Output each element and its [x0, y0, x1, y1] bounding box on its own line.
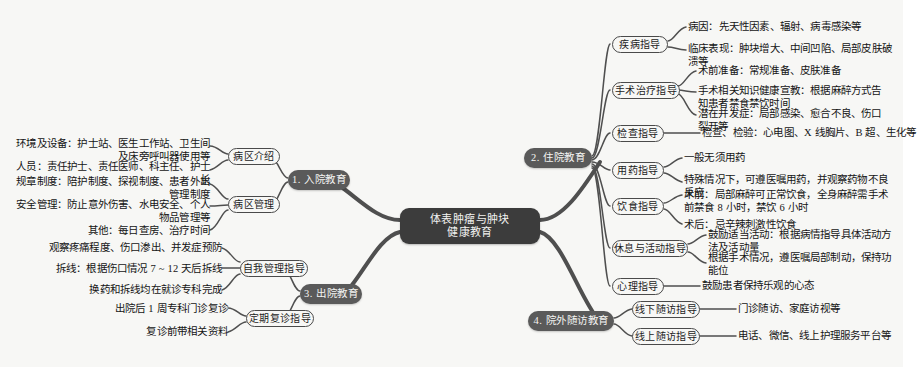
group-node-surgery-guidance[interactable]: 手术治疗指导 [612, 82, 680, 99]
root-node[interactable]: 体表肿瘤与肿块 健康教育 [400, 208, 540, 244]
branch-node-discharge[interactable]: 3. 出院教育 [300, 284, 362, 304]
group-node-examination-guidance[interactable]: 检查指导 [612, 125, 664, 142]
group-node-ward-management[interactable]: 病区管理 [228, 196, 280, 213]
branch-label-outpatient-followup: 4. 院外随访教育 [534, 315, 609, 327]
leaf-self-mgmt-dressing-change: 换药和拆线均在就诊专科完成 [16, 283, 222, 296]
group-label-ward-management: 病区管理 [233, 199, 274, 211]
group-node-online-followup[interactable]: 线上随访指导 [632, 328, 700, 345]
branch-node-admission[interactable]: 1. 入院教育 [288, 170, 350, 190]
group-label-rest-activity-guidance: 休息与活动指导 [614, 243, 686, 255]
group-node-followup-visit[interactable]: 定期复诊指导 [246, 310, 314, 327]
leaf-followup-one-week: 出院后 1 周专科门诊复诊 [22, 302, 228, 315]
group-label-followup-visit: 定期复诊指导 [249, 313, 311, 325]
branch-label-discharge: 3. 出院教育 [304, 288, 358, 300]
leaf-followup-bring-records: 复诊前带相关资料 [22, 325, 228, 338]
group-node-rest-activity-guidance[interactable]: 休息与活动指导 [612, 240, 688, 257]
root-title-line2: 健康教育 [447, 226, 493, 239]
branch-node-outpatient-followup[interactable]: 4. 院外随访教育 [528, 311, 614, 331]
branch-label-admission: 1. 入院教育 [292, 174, 346, 186]
group-node-ward-intro[interactable]: 病区介绍 [228, 148, 280, 165]
branch-label-inpatient: 2. 住院教育 [531, 152, 585, 164]
root-title-line1: 体表肿瘤与肿块 [430, 213, 510, 226]
group-node-self-management[interactable]: 自我管理指导 [240, 260, 308, 277]
leaf-medication-none-needed: 一般无须用药 [684, 151, 899, 164]
leaf-self-mgmt-observe-pain: 观察疼痛程度、伤口渗出、并发症预防 [16, 241, 222, 254]
group-label-ward-intro: 病区介绍 [233, 151, 274, 163]
group-label-examination-guidance: 检查指导 [617, 128, 658, 140]
group-node-disease-guidance[interactable]: 疾病指导 [612, 36, 668, 53]
group-label-offline-followup: 线下随访指导 [635, 304, 697, 316]
leaf-online-followup-methods: 电话、微信、线上护理服务平台等 [738, 329, 903, 342]
leaf-disease-cause: 病因：先天性因素、辐射、病毒感染等 [688, 20, 903, 33]
group-node-offline-followup[interactable]: 线下随访指导 [632, 301, 700, 318]
group-label-online-followup: 线上随访指导 [635, 331, 697, 343]
leaf-offline-followup-methods: 门诊随访、家庭访视等 [738, 302, 903, 315]
group-label-surgery-guidance: 手术治疗指导 [615, 85, 677, 97]
leaf-psychological-optimism: 鼓励患者保持乐观的心态 [702, 279, 902, 292]
leaf-surgery-preop-prep: 术前准备：常规准备、皮肤准备 [698, 64, 903, 77]
group-label-self-management: 自我管理指导 [243, 263, 305, 275]
leaf-self-mgmt-suture-removal: 拆线：根据伤口情况 7 ~ 12 天后拆线 [16, 262, 222, 275]
group-label-disease-guidance: 疾病指导 [619, 39, 660, 51]
leaf-diet-preop: 术前：局部麻醉可正常饮食，全身麻醉需手术 前禁食 8 小时，禁饮 6 小时 [684, 188, 896, 214]
leaf-ward-mgmt-safety: 安全管理：防止意外伤害、水电安全、个人 物品管理等 [10, 198, 210, 224]
leaf-ward-mgmt-other: 其他：每日查房、治疗时间 [10, 224, 210, 237]
group-label-medication-guidance: 用药指导 [617, 165, 658, 177]
leaf-examination-tests: 检查、检验：心电图、X 线胸片、B 超、生化等 [702, 126, 917, 139]
group-node-medication-guidance[interactable]: 用药指导 [612, 162, 664, 179]
branch-node-inpatient[interactable]: 2. 住院教育 [524, 148, 592, 168]
leaf-rest-immobilization: 根据手术情况，遵医嘱局部制动，保持功 能位 [708, 251, 903, 277]
group-label-diet-guidance: 饮食指导 [617, 201, 658, 213]
group-node-diet-guidance[interactable]: 饮食指导 [612, 198, 664, 215]
group-label-psychological-guidance: 心理指导 [617, 281, 658, 293]
group-node-psychological-guidance[interactable]: 心理指导 [612, 278, 664, 295]
